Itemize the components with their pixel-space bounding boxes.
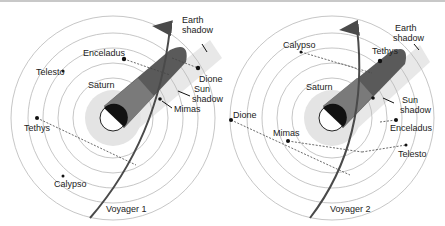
label-mimas: Mimas <box>273 128 300 138</box>
moon-tethys <box>35 116 39 120</box>
label-enceladus: Enceladus <box>390 123 433 133</box>
label-tethys: Tethys <box>24 123 51 133</box>
label-sun-shadow-2: shadow <box>400 105 432 115</box>
label-saturn: Saturn <box>88 80 115 90</box>
moon-dione <box>196 66 200 70</box>
label-dione: Dione <box>233 110 257 120</box>
moon-calypso <box>62 175 65 178</box>
panel-voyager-2: Earth shadow Calypso Tethys Saturn Sun s… <box>229 16 434 220</box>
label-sun-shadow-1: Sun <box>194 84 210 94</box>
label-telesto: Telesto <box>36 67 65 77</box>
label-earth-shadow-2: shadow <box>393 33 425 43</box>
label-earth-shadow-1: Earth <box>395 23 417 33</box>
label-tethys: Tethys <box>372 46 399 56</box>
label-dione: Dione <box>199 74 223 84</box>
moon-calypso <box>300 51 303 54</box>
label-mimas: Mimas <box>174 104 201 114</box>
label-calypso: Calypso <box>283 40 316 50</box>
label-calypso: Calypso <box>54 179 87 189</box>
label-earth-shadow-1: Earth <box>182 15 204 25</box>
moon-sun-shadow-target <box>371 96 375 100</box>
label-voyager-2: Voyager 2 <box>330 204 371 214</box>
moon-enceladus <box>394 118 398 122</box>
label-telesto: Telesto <box>398 149 427 159</box>
label-sun-shadow-2: shadow <box>192 94 224 104</box>
label-earth-shadow-2: shadow <box>182 25 214 35</box>
moon-telesto <box>405 144 408 147</box>
moon-tethys <box>378 59 382 63</box>
label-sun-shadow-1: Sun <box>402 95 418 105</box>
panel-voyager-1: Earth shadow Enceladus Telesto Dione Sun… <box>11 15 224 220</box>
moon-mimas <box>158 97 162 101</box>
label-saturn: Saturn <box>306 82 333 92</box>
moon-mimas <box>286 139 290 143</box>
label-enceladus: Enceladus <box>83 48 126 58</box>
label-voyager-1: Voyager 1 <box>106 204 147 214</box>
voyager-saturn-diagram: Earth shadow Enceladus Telesto Dione Sun… <box>0 0 445 226</box>
